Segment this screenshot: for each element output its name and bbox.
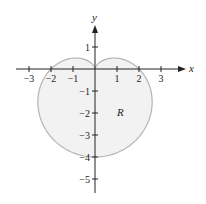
y-tick-label: −1 — [79, 86, 90, 97]
x-tick-label: 3 — [159, 73, 164, 84]
y-tick-label: −4 — [79, 152, 90, 163]
x-tick-label: 1 — [115, 73, 120, 84]
x-tick-label: −3 — [24, 73, 35, 84]
y-axis-label: y — [91, 11, 97, 23]
y-tick-label: −2 — [79, 108, 90, 119]
x-axis-label: x — [188, 62, 194, 74]
y-tick-label: −3 — [79, 130, 90, 141]
y-axis-arrow — [92, 25, 98, 33]
x-tick-label: −2 — [46, 73, 57, 84]
y-tick-label: −5 — [79, 174, 90, 185]
x-tick-label: −1 — [68, 73, 79, 84]
x-tick-label: 2 — [137, 73, 142, 84]
region-label: R — [116, 106, 124, 118]
x-axis-arrow — [178, 66, 186, 72]
y-tick-label: 1 — [85, 42, 90, 53]
cardioid-chart: −3−2−11231−1−2−3−4−5 x y R — [0, 0, 206, 204]
